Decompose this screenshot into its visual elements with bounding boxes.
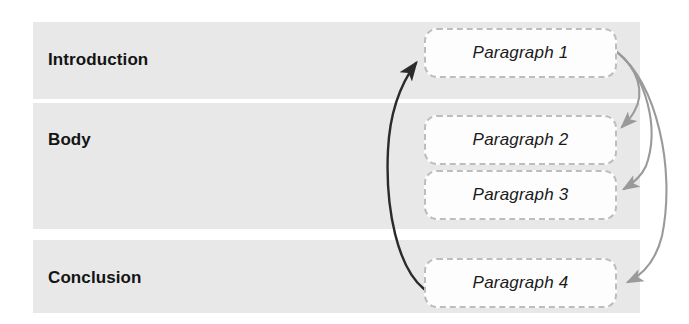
section-label-introduction: Introduction bbox=[48, 50, 148, 70]
paragraph-box-4[interactable]: Paragraph 4 bbox=[424, 258, 617, 308]
paragraph-box-2-label: Paragraph 2 bbox=[473, 130, 569, 150]
paragraph-box-1[interactable]: Paragraph 1 bbox=[424, 28, 617, 78]
paragraph-box-3[interactable]: Paragraph 3 bbox=[424, 170, 617, 220]
paragraph-box-1-label: Paragraph 1 bbox=[473, 43, 569, 63]
section-label-conclusion: Conclusion bbox=[48, 268, 142, 288]
essay-structure-diagram: Introduction Body Conclusion Paragraph 1… bbox=[0, 0, 689, 324]
paragraph-box-2[interactable]: Paragraph 2 bbox=[424, 115, 617, 165]
paragraph-box-4-label: Paragraph 4 bbox=[473, 273, 569, 293]
paragraph-box-3-label: Paragraph 3 bbox=[473, 185, 569, 205]
section-label-body: Body bbox=[48, 130, 91, 150]
